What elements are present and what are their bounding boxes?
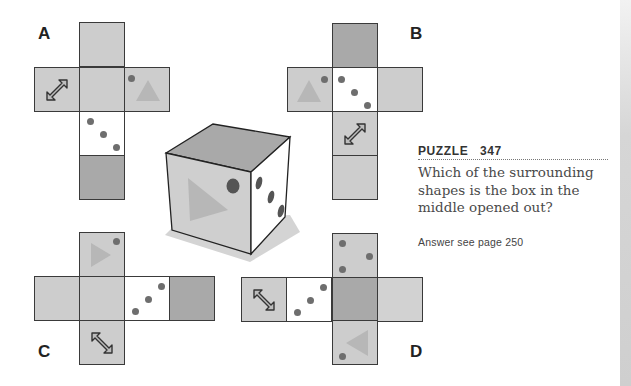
cube-dot [227, 179, 240, 194]
dot [339, 266, 346, 273]
face-triangle [79, 232, 125, 277]
face-grey [79, 276, 125, 321]
face-grey [377, 277, 423, 322]
dot [366, 253, 373, 260]
dot [87, 118, 94, 125]
triangle-left-icon [346, 330, 368, 356]
face-arrow [241, 277, 287, 322]
face-grey [34, 276, 80, 321]
face-three-dots [286, 277, 332, 322]
dot [320, 284, 327, 291]
double-arrow-icon [44, 77, 70, 103]
face-triangle [287, 67, 333, 112]
dot [338, 76, 345, 83]
dot [364, 102, 371, 109]
cube [150, 110, 300, 270]
face-arrow [34, 67, 80, 112]
face-grey [332, 155, 378, 200]
option-c-label: C [38, 342, 50, 362]
face-three-dots [124, 276, 170, 321]
dot [294, 309, 301, 316]
face-three-dots [332, 67, 378, 112]
puzzle-title: PUZZLE 347 [418, 144, 502, 158]
dot [321, 76, 328, 83]
face-dark [79, 155, 125, 200]
dot [307, 297, 314, 304]
option-a-label: A [38, 24, 50, 44]
face-grey [79, 67, 125, 112]
dot [351, 89, 358, 96]
dot [128, 75, 135, 82]
face-triangle [332, 320, 378, 365]
double-arrow-icon [342, 121, 368, 147]
dot [339, 353, 346, 360]
face-three-dots [332, 233, 378, 278]
face-grey [79, 22, 125, 67]
option-b-label: B [410, 24, 422, 44]
face-arrow [79, 320, 125, 365]
face-grey [377, 67, 423, 112]
triangle-up-icon [136, 80, 160, 101]
triangle-right-icon [91, 243, 111, 267]
dot [100, 131, 107, 138]
puzzle-question: Which of the surrounding shapes is the b… [418, 164, 618, 217]
answer-reference: Answer see page 250 [418, 236, 523, 248]
dot [158, 283, 165, 290]
dot [339, 240, 346, 247]
double-arrow-icon [89, 330, 115, 356]
face-arrow [332, 111, 378, 156]
dot [145, 296, 152, 303]
dot [113, 144, 120, 151]
face-triangle [124, 67, 170, 112]
dot [113, 238, 120, 245]
dot [132, 308, 139, 315]
option-d-label: D [410, 342, 422, 362]
face-dark [332, 277, 378, 322]
title-divider [418, 159, 608, 160]
face-three-dots [79, 111, 125, 156]
face-dark [332, 23, 378, 68]
page-edge [620, 0, 631, 386]
double-arrow-icon [251, 287, 277, 313]
face-dark [169, 276, 215, 321]
triangle-up-icon [297, 80, 321, 102]
